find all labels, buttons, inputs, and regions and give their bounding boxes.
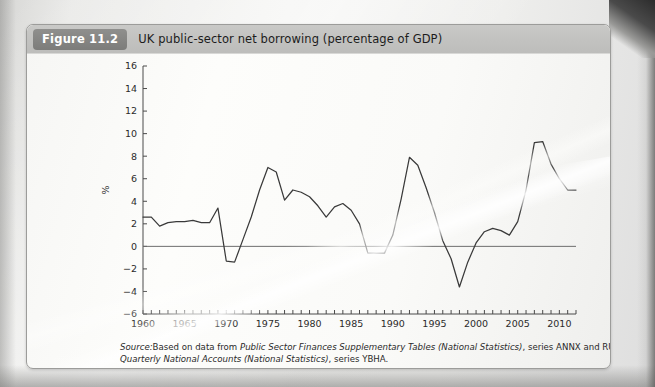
y-tick-label: 14	[125, 83, 137, 94]
y-tick-label: 6	[131, 173, 137, 184]
y-axis-label: %	[100, 185, 111, 194]
page-edge-right	[637, 0, 655, 387]
source-line2-suffix: , series YBHA.	[329, 354, 389, 364]
x-tick-label: 1960	[131, 318, 155, 329]
x-tick-label: 1970	[214, 318, 238, 329]
source-line2-title: Quarterly National Accounts (National St…	[120, 354, 329, 364]
source-line-1: Source:Based on data from Public Sector …	[120, 342, 590, 354]
y-tick-label: −4	[123, 286, 137, 297]
y-tick-label: 10	[125, 128, 137, 139]
y-tick-label: 4	[131, 196, 137, 207]
x-tick-label: 2010	[547, 318, 571, 329]
x-tick-label: 1980	[297, 318, 321, 329]
figure-box: Figure 11.2 UK public-sector net borrowi…	[26, 24, 611, 369]
x-tick-label: 2005	[506, 318, 530, 329]
y-tick-label: 12	[125, 105, 137, 116]
series-line	[143, 142, 576, 287]
source-note: Source:Based on data from Public Sector …	[120, 342, 590, 365]
source-line-2: Quarterly National Accounts (National St…	[120, 354, 590, 366]
figure-number-badge: Figure 11.2	[33, 29, 127, 50]
tick-labels-group: −6−4−20246810121416196019651970197519801…	[123, 60, 571, 329]
page-corner-fold	[609, 0, 655, 58]
figure-title: UK public-sector net borrowing (percenta…	[138, 32, 442, 46]
source-line1-title: Public Sector Finances Supplementary Tab…	[240, 342, 522, 352]
plot-area: −6−4−20246810121416196019651970197519801…	[27, 53, 610, 368]
figure-header: Figure 11.2 UK public-sector net borrowi…	[27, 25, 610, 54]
y-tick-label: −2	[123, 263, 137, 274]
page-edge-left	[0, 0, 16, 387]
source-label: Source:	[120, 342, 153, 352]
axes-group	[143, 66, 576, 314]
x-tick-label: 2000	[464, 318, 488, 329]
data-series-group	[143, 142, 576, 287]
y-tick-label: 8	[131, 151, 137, 162]
y-tick-label: 16	[125, 60, 137, 71]
x-tick-label: 1995	[422, 318, 446, 329]
x-tick-label: 1965	[173, 318, 197, 329]
y-tick-label: 2	[131, 218, 137, 229]
x-tick-label: 1990	[381, 318, 405, 329]
x-tick-label: 1975	[256, 318, 280, 329]
x-tick-label: 1985	[339, 318, 363, 329]
y-tick-label: 0	[131, 241, 137, 252]
source-line1-suffix: , series ANNX and RURQ;	[522, 342, 611, 352]
source-line1-prefix: Based on data from	[153, 342, 240, 352]
line-chart: −6−4−20246810121416196019651970197519801…	[27, 53, 610, 368]
